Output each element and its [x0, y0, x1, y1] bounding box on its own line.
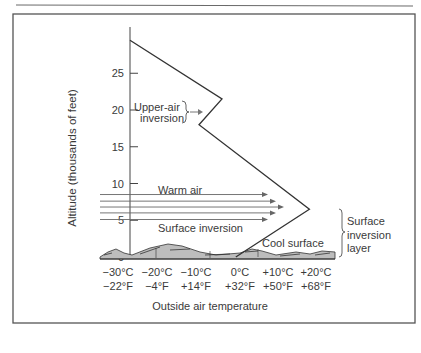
- warm-air-arrowhead: [262, 192, 268, 197]
- surface-inversion-layer-bracket: [339, 209, 345, 257]
- x-tick-label-fahrenheit: +50°F: [263, 280, 293, 292]
- x-tick-label-fahrenheit: −4°F: [145, 280, 169, 292]
- surface-inversion-layer-label-2: inversion: [347, 229, 391, 241]
- surface-inversion-layer-label-3: layer: [347, 242, 371, 254]
- cool-surface-label: Cool surface: [262, 237, 324, 249]
- surface-inversion-layer-label-1: Surface: [347, 215, 385, 227]
- warm-air-arrowhead: [262, 217, 268, 222]
- x-axis-title: Outside air temperature: [152, 300, 268, 312]
- x-tick-label-celsius: −30°C: [102, 266, 133, 278]
- warm-air-arrowhead: [278, 205, 284, 210]
- upper-air-inversion-label-2: inversion: [140, 112, 184, 124]
- upper-air-arrowhead: [198, 109, 203, 115]
- x-tick-label-fahrenheit: +14°F: [181, 280, 211, 292]
- x-tick-label-celsius: −10°C: [180, 266, 211, 278]
- top-rule: [16, 5, 413, 6]
- warm-air-label: Warm air: [158, 184, 203, 196]
- y-tick-label: 5: [118, 214, 124, 226]
- surface-inversion-label: Surface inversion: [158, 222, 243, 234]
- warm-air-arrowhead: [270, 210, 276, 215]
- x-tick-label-celsius: 0°C: [231, 266, 250, 278]
- y-tick-label: 20: [112, 104, 124, 116]
- x-tick-label-celsius: +10°C: [262, 266, 293, 278]
- x-tick-label-fahrenheit: +32°F: [225, 280, 255, 292]
- y-tick-label: 25: [112, 67, 124, 79]
- y-axis-title: Altitude (thousands of feet): [66, 89, 78, 227]
- temperature-inversion-diagram: 0510152025 Altitude (thousands of feet) …: [0, 0, 421, 353]
- x-tick-label-fahrenheit: −22°F: [103, 280, 133, 292]
- x-tick-label-celsius: +20°C: [300, 266, 331, 278]
- x-tick-label-fahrenheit: +68°F: [301, 280, 331, 292]
- y-tick-label: 10: [112, 178, 124, 190]
- x-tick-label-celsius: −20°C: [141, 266, 172, 278]
- y-tick-label: 15: [112, 141, 124, 153]
- warm-air-arrowhead: [270, 199, 276, 204]
